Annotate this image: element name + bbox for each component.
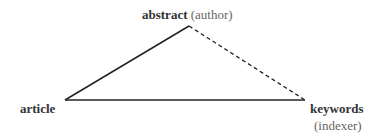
node-abstract-note: (author) bbox=[191, 7, 233, 22]
node-abstract-label: abstract bbox=[142, 7, 188, 22]
edge-abstract-keywords bbox=[189, 26, 305, 100]
node-keywords-label: keywords bbox=[310, 102, 363, 115]
edge-article-abstract bbox=[65, 26, 189, 100]
node-abstract: abstract (author) bbox=[142, 8, 233, 21]
node-article-label: article bbox=[20, 102, 55, 115]
node-keywords-note: (indexer) bbox=[314, 119, 362, 132]
